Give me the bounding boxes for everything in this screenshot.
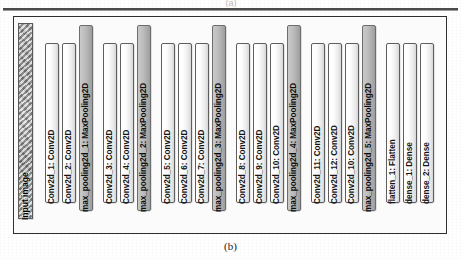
layer-block-label: Conv2d_8: Conv2D xyxy=(239,43,247,204)
layer-block-label: Conv2d_10: Conv2D xyxy=(273,43,281,204)
layer-block-label: dense_2: Dense xyxy=(423,43,431,204)
layer-block-input[interactable]: Input image xyxy=(18,23,33,219)
layer-block-pool[interactable]: max_pooling2d_3: MaxPooling2D xyxy=(212,25,226,211)
layer-block-conv[interactable]: Conv2d_9: Conv2D xyxy=(253,43,267,203)
layer-block-conv[interactable]: Conv2d_6: Conv2D xyxy=(178,43,192,203)
layer-block-conv[interactable]: dense_1: Dense xyxy=(403,43,417,203)
layer-block-conv[interactable]: Conv2d_1: Conv2D xyxy=(45,43,59,203)
layer-block-label: max_pooling2d_2: MaxPooling2D xyxy=(140,25,148,212)
diagram-canvas: Input imageConv2d_1: Conv2DConv2d_2: Con… xyxy=(14,17,446,233)
layer-block-label: Conv2d_2: Conv2D xyxy=(65,43,73,204)
layer-block-pool[interactable]: max_pooling2d_5: MaxPooling2D xyxy=(362,25,376,211)
layer-block-label: Conv2d_6: Conv2D xyxy=(181,43,189,204)
layer-block-pool[interactable]: max_pooling2d_1: MaxPooling2D xyxy=(79,25,93,211)
layer-block-label: max_pooling2d_1: MaxPooling2D xyxy=(82,25,90,212)
layer-block-label: Conv2d_9: Conv2D xyxy=(256,43,264,204)
layer-block-label: max_pooling2d_4: MaxPooling2D xyxy=(290,25,298,212)
layer-block-row: Input imageConv2d_1: Conv2DConv2d_2: Con… xyxy=(18,21,437,231)
layer-block-label: Conv2d_12: Conv2D xyxy=(331,43,339,204)
layer-block-conv[interactable]: Conv2d_12: Conv2D xyxy=(328,43,342,203)
layer-block-conv[interactable]: Conv2d_10: Conv2D xyxy=(270,43,284,203)
layer-block-label: flatten_1: Flatten xyxy=(389,43,397,204)
panel-a-marker: (a) xyxy=(222,0,240,7)
layer-block-pool[interactable]: max_pooling2d_2: MaxPooling2D xyxy=(137,25,151,211)
layer-block-conv[interactable]: Conv2d_3: Conv2D xyxy=(103,43,117,203)
layer-block-label: Conv2d_1: Conv2D xyxy=(48,43,56,204)
layer-block-pool[interactable]: max_pooling2d_4: MaxPooling2D xyxy=(287,25,301,211)
layer-block-conv[interactable]: dense_2: Dense xyxy=(420,43,434,203)
figure-caption: (b) xyxy=(0,240,461,252)
layer-block-conv[interactable]: Conv2d_10: Conv2D xyxy=(345,43,359,203)
layer-block-label: max_pooling2d_3: MaxPooling2D xyxy=(215,25,223,212)
layer-block-conv[interactable]: Conv2d_4: Conv2D xyxy=(120,43,134,203)
layer-block-conv[interactable]: Conv2d_8: Conv2D xyxy=(236,43,250,203)
layer-block-label: Conv2d_11: Conv2D xyxy=(314,43,322,204)
layer-block-label: Conv2d_10: Conv2D xyxy=(348,43,356,204)
layer-block-conv[interactable]: Conv2d_7: Conv2D xyxy=(195,43,209,203)
layer-block-label: max_pooling2d_5: MaxPooling2D xyxy=(365,25,373,212)
layer-block-label: Input image xyxy=(21,23,30,220)
layer-block-label: Conv2d_3: Conv2D xyxy=(106,43,114,204)
architecture-diagram-frame: Input imageConv2d_1: Conv2DConv2d_2: Con… xyxy=(13,16,447,234)
layer-block-label: Conv2d_7: Conv2D xyxy=(198,43,206,204)
panel-divider-rule-shadow xyxy=(3,10,458,11)
layer-block-label: Conv2d_5: Conv2D xyxy=(164,43,172,204)
layer-block-conv[interactable]: Conv2d_2: Conv2D xyxy=(62,43,76,203)
layer-block-conv[interactable]: Conv2d_5: Conv2D xyxy=(161,43,175,203)
layer-block-conv[interactable]: flatten_1: Flatten xyxy=(386,43,400,203)
layer-block-label: Conv2d_4: Conv2D xyxy=(123,43,131,204)
layer-block-label: dense_1: Dense xyxy=(406,43,414,204)
layer-block-conv[interactable]: Conv2d_11: Conv2D xyxy=(311,43,325,203)
